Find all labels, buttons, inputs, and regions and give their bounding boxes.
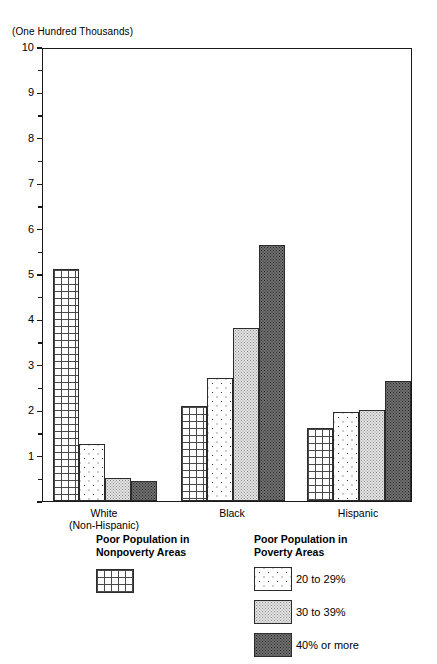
y-axis-tick-label: 3 (28, 359, 34, 372)
grid-pattern-swatch (96, 569, 134, 593)
legend-item[interactable]: 20 to 29% (254, 567, 359, 591)
bar (105, 478, 131, 501)
y-axis-tick-label: 10 (22, 41, 34, 54)
bar (385, 381, 411, 501)
y-axis-tick-label: 6 (28, 223, 34, 236)
legend-poverty-heading-line1: Poor Population in (254, 533, 359, 546)
legend-item-label: 20 to 29% (296, 573, 346, 586)
legend-nonpoverty-heading-line2: Nonpoverty Areas (96, 546, 189, 559)
dots-pattern-swatch (254, 567, 292, 591)
y-axis-units-note: (One Hundred Thousands) (12, 26, 133, 37)
legend-item-nonpoverty[interactable] (96, 569, 189, 593)
legend-poverty-heading-line2: Poverty Areas (254, 546, 359, 559)
chart-legend: Poor Population in Nonpoverty Areas Poor… (0, 525, 437, 664)
legend-item-label: 40% or more (296, 639, 359, 652)
legend-item-label: 30 to 39% (296, 606, 346, 619)
x-axis-group-label: Hispanic (288, 507, 428, 519)
bar (181, 406, 207, 501)
y-axis-tick-label: 1 (28, 450, 34, 463)
bar (53, 269, 79, 501)
bar (79, 444, 105, 501)
legend-item[interactable]: 30 to 39% (254, 600, 359, 624)
x-axis-group-label-line: Hispanic (288, 507, 428, 519)
stipple-light-pattern-swatch (254, 600, 292, 624)
plot-area (42, 48, 412, 502)
legend-item[interactable]: 40% or more (254, 633, 359, 657)
legend-poverty-items: 20 to 29%30 to 39%40% or more (254, 567, 359, 657)
y-axis-tick-label: 9 (28, 86, 34, 99)
legend-nonpoverty-heading-line1: Poor Population in (96, 533, 189, 546)
stipple-dark-pattern-swatch (254, 633, 292, 657)
bar (233, 328, 259, 501)
x-axis-group-label-line: White (34, 507, 174, 519)
legend-group-nonpoverty: Poor Population in Nonpoverty Areas (96, 533, 189, 593)
bar (333, 412, 359, 501)
bar (207, 378, 233, 501)
bar (307, 428, 333, 501)
y-axis: 12345678910 (0, 48, 42, 502)
x-axis-group-label: Black (162, 507, 302, 519)
legend-group-poverty: Poor Population in Poverty Areas 20 to 2… (254, 533, 359, 657)
y-axis-tick-label: 5 (28, 268, 34, 281)
y-axis-tick-label: 4 (28, 313, 34, 326)
y-axis-tick-label: 7 (28, 177, 34, 190)
bar (131, 481, 157, 501)
x-axis-group-label-line: Black (162, 507, 302, 519)
bar (359, 410, 385, 501)
y-axis-tick-label: 8 (28, 132, 34, 145)
bar (259, 245, 285, 502)
y-axis-tick-label: 2 (28, 404, 34, 417)
